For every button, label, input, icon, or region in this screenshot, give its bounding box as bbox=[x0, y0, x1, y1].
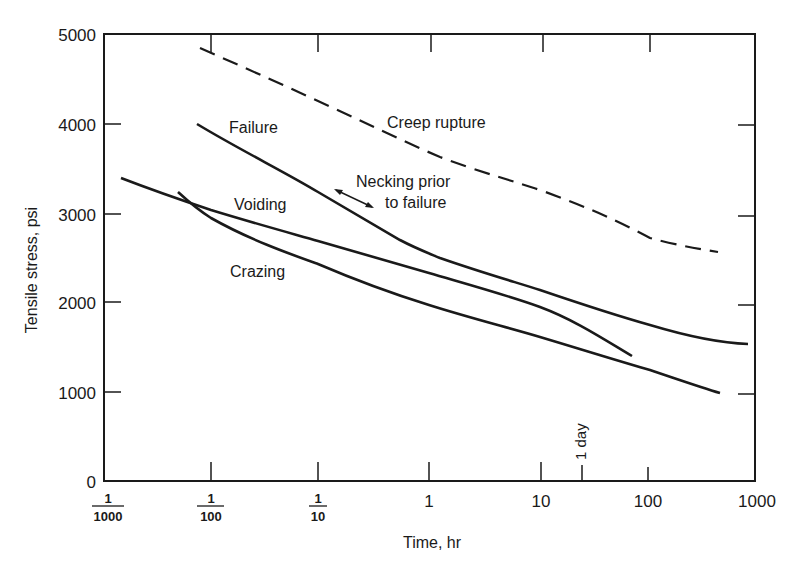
x-tick-labels: 1 1000 1 100 1 10 bbox=[92, 491, 327, 524]
x-tick-10: 10 bbox=[532, 492, 551, 511]
x-axis-title: Time, hr bbox=[403, 534, 462, 551]
x-tick-100: 100 bbox=[634, 492, 662, 511]
failure-label: Failure bbox=[229, 119, 278, 136]
x-tick-10-num: 1 bbox=[314, 491, 321, 506]
necking-label-line1: Necking prior bbox=[356, 173, 451, 190]
curve-labels: Failure Creep rupture Voiding Crazing Ne… bbox=[229, 114, 486, 280]
y-axis-ticks-right bbox=[738, 125, 755, 394]
y-axis-title: Tensile stress, psi bbox=[23, 207, 40, 333]
chart: 0 1000 2000 3000 4000 5000 1 1000 1 100 … bbox=[0, 0, 788, 574]
y-tick-labels: 0 1000 2000 3000 4000 5000 bbox=[58, 26, 96, 492]
x-tick-10-den: 10 bbox=[311, 509, 325, 524]
voiding-curve bbox=[121, 178, 632, 356]
x-tick-1000: 1000 bbox=[738, 492, 776, 511]
crazing-label: Crazing bbox=[230, 263, 285, 280]
x-tick-1000-num: 1 bbox=[104, 491, 111, 506]
crazing-curve bbox=[178, 192, 720, 393]
y-tick-3000: 3000 bbox=[58, 206, 96, 225]
y-tick-2000: 2000 bbox=[58, 294, 96, 313]
voiding-label: Voiding bbox=[234, 196, 287, 213]
failure-curve bbox=[197, 124, 748, 344]
y-axis-ticks-left bbox=[104, 124, 121, 392]
x-tick-labels-int: 1 10 100 1000 bbox=[424, 492, 776, 511]
x-tick-100-num: 1 bbox=[207, 491, 214, 506]
y-tick-4000: 4000 bbox=[58, 116, 96, 135]
x-tick-1000-den: 1000 bbox=[94, 509, 123, 524]
creep-rupture-curve bbox=[200, 48, 718, 252]
x-tick-1: 1 bbox=[424, 492, 433, 511]
x-axis-ticks-top bbox=[211, 34, 650, 52]
y-tick-1000: 1000 bbox=[58, 384, 96, 403]
x-tick-100-den: 100 bbox=[200, 509, 222, 524]
plot-frame bbox=[104, 34, 755, 481]
creep-rupture-label: Creep rupture bbox=[387, 114, 486, 131]
y-tick-5000: 5000 bbox=[58, 26, 96, 45]
one-day-label: 1 day bbox=[572, 423, 589, 460]
x-axis-ticks-bottom bbox=[211, 462, 648, 481]
necking-label-line2: to failure bbox=[385, 194, 446, 211]
y-tick-0: 0 bbox=[87, 473, 96, 492]
